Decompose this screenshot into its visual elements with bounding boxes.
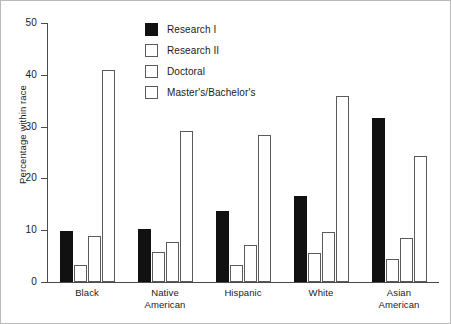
bar-black-master-s-bachelor-s	[102, 70, 115, 282]
x-axis-label-hispanic: Hispanic	[198, 287, 288, 299]
bar-asian-american-master-s-bachelor-s	[414, 156, 427, 282]
x-axis-label-black: Black	[42, 287, 132, 299]
x-axis-label-line: Hispanic	[224, 287, 261, 298]
legend-label: Master's/Bachelor's	[167, 87, 256, 98]
x-axis-spine	[47, 282, 439, 283]
x-axis-label-native-american: NativeAmerican	[120, 287, 210, 311]
legend-swatch-icon	[145, 65, 158, 78]
y-axis-tick	[41, 230, 48, 231]
legend-swatch-icon	[145, 23, 158, 36]
y-axis-tick-label: 0	[1, 277, 37, 287]
legend-label: Research I	[167, 24, 216, 35]
chart-legend: Research IResearch IIDoctoralMaster's/Ba…	[145, 19, 256, 103]
x-axis-label-line: White	[309, 287, 334, 298]
bar-hispanic-master-s-bachelor-s	[258, 135, 271, 282]
chart-figure: 01020304050 Percentage within race Black…	[0, 0, 451, 324]
x-axis-label-line: American	[120, 299, 210, 311]
bar-hispanic-research-i	[216, 211, 229, 282]
y-axis-tick	[41, 75, 48, 76]
bar-asian-american-doctoral	[400, 238, 413, 282]
x-axis-label-white: White	[276, 287, 366, 299]
bar-native-american-doctoral	[166, 242, 179, 282]
y-axis-title: Percentage within race	[17, 60, 28, 210]
x-axis-label-asian-american: AsianAmerican	[354, 287, 444, 311]
legend-label: Doctoral	[167, 66, 205, 77]
bar-hispanic-research-ii	[230, 265, 243, 282]
legend-item-research-i: Research I	[145, 19, 256, 40]
bar-white-research-i	[294, 196, 307, 282]
x-axis-label-line: Black	[75, 287, 99, 298]
bar-black-research-ii	[74, 265, 87, 282]
legend-item-doctoral: Doctoral	[145, 61, 256, 82]
y-axis-tick-label: 10	[1, 225, 37, 235]
x-axis-label-line: Asian	[387, 287, 411, 298]
legend-item-master-s-bachelor-s: Master's/Bachelor's	[145, 82, 256, 103]
bar-native-american-research-ii	[152, 252, 165, 282]
bar-asian-american-research-ii	[386, 259, 399, 282]
y-axis-tick	[41, 127, 48, 128]
legend-swatch-icon	[145, 44, 158, 57]
bar-native-american-master-s-bachelor-s	[180, 131, 193, 282]
x-axis-label-line: American	[354, 299, 444, 311]
legend-swatch-icon	[145, 86, 158, 99]
legend-item-research-ii: Research II	[145, 40, 256, 61]
legend-label: Research II	[167, 45, 219, 56]
bar-white-master-s-bachelor-s	[336, 96, 349, 282]
bar-hispanic-doctoral	[244, 245, 257, 282]
bar-white-doctoral	[322, 232, 335, 282]
y-axis-tick	[41, 282, 48, 283]
x-axis-label-line: Native	[151, 287, 179, 298]
bar-asian-american-research-i	[372, 118, 385, 282]
bar-white-research-ii	[308, 253, 321, 282]
bar-black-doctoral	[88, 236, 101, 282]
bar-black-research-i	[60, 231, 73, 282]
y-axis-tick-label: 50	[1, 18, 37, 28]
y-axis-tick	[41, 23, 48, 24]
y-axis-tick	[41, 178, 48, 179]
bar-native-american-research-i	[138, 229, 151, 282]
